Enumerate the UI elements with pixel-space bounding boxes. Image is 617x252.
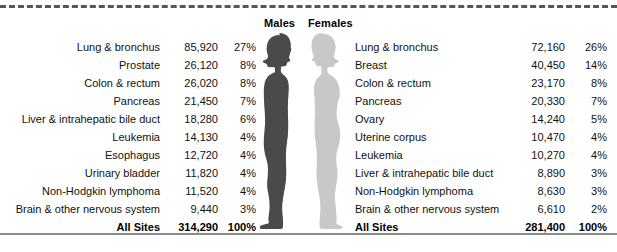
table-row: Non-Hodgkin lymphoma8,6303% (355, 182, 607, 200)
top-dashed-divider (0, 5, 617, 8)
females-pct-cell: 5% (565, 110, 607, 128)
males-count-cell: 14,130 (160, 128, 218, 146)
females-count-cell: 10,270 (507, 146, 565, 164)
males-count-cell: 26,120 (160, 56, 218, 74)
males-site-cell: Urinary bladder (8, 164, 160, 182)
mortality-figure: Males Females Lung & bronchus85,92027%Pr… (0, 0, 617, 252)
males-site-cell: Prostate (8, 56, 160, 74)
females-pct-cell: 7% (565, 92, 607, 110)
males-site-cell: Brain & other nervous system (8, 200, 160, 218)
females-site-cell: Leukemia (355, 146, 507, 164)
males-count-cell: 18,280 (160, 110, 218, 128)
females-pct-cell: 3% (565, 164, 607, 182)
males-pct-cell: 7% (218, 92, 256, 110)
males-table-body: Lung & bronchus85,92027%Prostate26,1208%… (8, 38, 256, 236)
males-site-cell: Lung & bronchus (8, 38, 160, 56)
males-site-cell: Esophagus (8, 146, 160, 164)
females-count-cell: 40,450 (507, 56, 565, 74)
females-count-cell: 23,170 (507, 74, 565, 92)
males-count-cell: 26,020 (160, 74, 218, 92)
females-pct-cell: 8% (565, 74, 607, 92)
males-site-cell: Colon & rectum (8, 74, 160, 92)
males-pct-cell: 4% (218, 128, 256, 146)
table-row: Breast40,45014% (355, 56, 607, 74)
females-count-cell: 8,890 (507, 164, 565, 182)
males-count-cell: 9,440 (160, 200, 218, 218)
table-row: Esophagus12,7204% (8, 146, 256, 164)
males-pct-cell: 8% (218, 56, 256, 74)
males-site-cell: Liver & intrahepatic bile duct (8, 110, 160, 128)
males-table: Lung & bronchus85,92027%Prostate26,1208%… (8, 38, 256, 236)
table-row: Uterine corpus10,4704% (355, 128, 607, 146)
table-row: Ovary14,2405% (355, 110, 607, 128)
males-site-cell: Non-Hodgkin lymphoma (8, 182, 160, 200)
females-count-cell: 14,240 (507, 110, 565, 128)
males-pct-cell: 4% (218, 164, 256, 182)
females-site-cell: Ovary (355, 110, 507, 128)
males-count-cell: 85,920 (160, 38, 218, 56)
table-row: Leukemia14,1304% (8, 128, 256, 146)
females-pct-cell: 2% (565, 200, 607, 218)
females-site-cell: Colon & rectum (355, 74, 507, 92)
table-row: Colon & rectum26,0208% (8, 74, 256, 92)
males-site-cell: Pancreas (8, 92, 160, 110)
table-row: Urinary bladder11,8204% (8, 164, 256, 182)
females-site-cell: Pancreas (355, 92, 507, 110)
females-count-cell: 8,630 (507, 182, 565, 200)
females-count-cell: 20,330 (507, 92, 565, 110)
females-table-body: Lung & bronchus72,16026%Breast40,45014%C… (355, 38, 607, 236)
females-table: Lung & bronchus72,16026%Breast40,45014%C… (355, 38, 607, 236)
females-pct-cell: 4% (565, 128, 607, 146)
females-pct-cell: 26% (565, 38, 607, 56)
males-pct-cell: 4% (218, 182, 256, 200)
males-count-cell: 11,520 (160, 182, 218, 200)
females-site-cell: Liver & intrahepatic bile duct (355, 164, 507, 182)
females-pct-cell: 3% (565, 182, 607, 200)
males-pct-cell: 27% (218, 38, 256, 56)
table-row: Lung & bronchus72,16026% (355, 38, 607, 56)
males-pct-cell: 8% (218, 74, 256, 92)
table-row: Prostate26,1208% (8, 56, 256, 74)
table-row: Non-Hodgkin lymphoma11,5204% (8, 182, 256, 200)
column-header-males: Males (264, 17, 295, 29)
column-header-females: Females (308, 17, 353, 29)
table-row: Leukemia10,2704% (355, 146, 607, 164)
females-site-cell: Lung & bronchus (355, 38, 507, 56)
table-row: Liver & intrahepatic bile duct8,8903% (355, 164, 607, 182)
females-site-cell: Uterine corpus (355, 128, 507, 146)
bottom-divider (0, 233, 617, 235)
table-row: Pancreas21,4507% (8, 92, 256, 110)
males-site-cell: Leukemia (8, 128, 160, 146)
males-count-cell: 11,820 (160, 164, 218, 182)
male-silhouette-icon (259, 31, 299, 231)
table-row: Brain & other nervous system9,4403% (8, 200, 256, 218)
females-count-cell: 6,610 (507, 200, 565, 218)
table-row: Pancreas20,3307% (355, 92, 607, 110)
males-count-cell: 21,450 (160, 92, 218, 110)
males-count-cell: 12,720 (160, 146, 218, 164)
females-site-cell: Brain & other nervous system (355, 200, 507, 218)
table-row: Brain & other nervous system6,6102% (355, 200, 607, 218)
table-row: Liver & intrahepatic bile duct18,2806% (8, 110, 256, 128)
males-pct-cell: 4% (218, 146, 256, 164)
table-row: Lung & bronchus85,92027% (8, 38, 256, 56)
females-site-cell: Non-Hodgkin lymphoma (355, 182, 507, 200)
female-silhouette-icon (303, 31, 343, 231)
females-pct-cell: 4% (565, 146, 607, 164)
females-site-cell: Breast (355, 56, 507, 74)
females-count-cell: 10,470 (507, 128, 565, 146)
table-row: Colon & rectum23,1708% (355, 74, 607, 92)
females-pct-cell: 14% (565, 56, 607, 74)
males-pct-cell: 3% (218, 200, 256, 218)
males-pct-cell: 6% (218, 110, 256, 128)
females-count-cell: 72,160 (507, 38, 565, 56)
